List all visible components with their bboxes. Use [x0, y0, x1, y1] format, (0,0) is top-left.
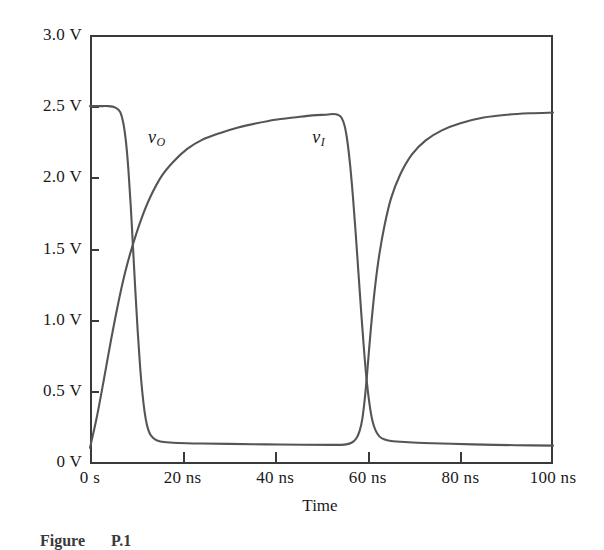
curve-label-subscript: O [156, 135, 165, 149]
figure-caption: FigureP.1 [40, 532, 131, 550]
curve-vI [90, 114, 553, 448]
x-axis-title-text: Time [266, 496, 337, 515]
curve-label-vI: vI [312, 128, 325, 151]
curve-vO [90, 106, 553, 445]
curve-label-vO: vO [148, 128, 165, 151]
curve-label-subscript: I [320, 135, 325, 149]
figure-caption-number: P.1 [85, 532, 131, 549]
figure-caption-label: Figure [40, 532, 85, 549]
curve-label-base: v [148, 127, 156, 147]
x-axis-title: Time [0, 496, 604, 515]
